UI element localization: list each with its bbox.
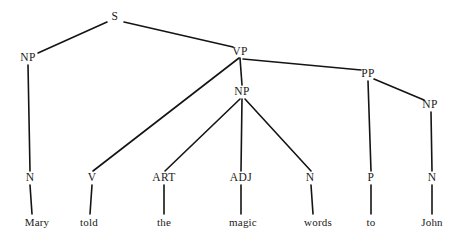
tree-node-np_obj: NP xyxy=(234,86,250,98)
tree-node-v_told: V xyxy=(88,172,97,184)
tree-node-n_mary: N xyxy=(26,172,35,184)
tree-edge-vp-to-v_told xyxy=(93,58,239,171)
tree-node-pp: PP xyxy=(361,68,375,80)
tree-edge-np_obj-to-art_the xyxy=(165,99,240,171)
tree-node-s: S xyxy=(112,11,119,23)
tree-edge-layer xyxy=(0,0,462,243)
tree-node-n_john: N xyxy=(428,172,437,184)
tree-edge-np_subj-to-n_mary xyxy=(28,65,30,171)
tree-edge-np_pobj-to-n_john xyxy=(431,112,432,171)
tree-edge-np_obj-to-n_words xyxy=(245,99,311,171)
tree-edge-v_told-to-w_told xyxy=(90,185,92,214)
tree-edge-vp-to-pp xyxy=(243,59,361,70)
tree-edge-np_obj-to-adj_magic xyxy=(241,99,242,171)
tree-node-adj_magic: ADJ xyxy=(230,172,252,184)
tree-edge-vp-to-np_obj xyxy=(240,58,242,85)
tree-node-w_john: John xyxy=(421,217,443,228)
tree-node-w_magic: magic xyxy=(229,217,257,228)
tree-edge-pp-to-np_pobj xyxy=(374,79,424,100)
tree-edge-n_mary-to-w_mary xyxy=(30,185,32,214)
syntax-tree-diagram: SNPVPNPPPNPNVARTADJNPNMarytoldthemagicwo… xyxy=(0,0,462,243)
tree-node-w_words: words xyxy=(304,217,332,228)
tree-node-w_the: the xyxy=(157,217,171,228)
tree-node-p_to: P xyxy=(368,172,375,184)
tree-edge-s-to-np_subj xyxy=(38,22,107,53)
tree-edge-n_words-to-w_words xyxy=(311,185,313,214)
tree-edge-s-to-vp xyxy=(124,22,233,47)
tree-node-np_pobj: NP xyxy=(422,99,438,111)
tree-node-w_told: told xyxy=(80,217,98,228)
tree-node-np_subj: NP xyxy=(20,52,36,64)
tree-edge-pp-to-p_to xyxy=(368,81,371,171)
tree-node-n_words: N xyxy=(306,172,315,184)
tree-node-vp: VP xyxy=(232,46,248,58)
tree-node-w_mary: Mary xyxy=(25,217,50,228)
tree-node-art_the: ART xyxy=(152,172,176,184)
tree-node-w_to: to xyxy=(367,217,376,228)
